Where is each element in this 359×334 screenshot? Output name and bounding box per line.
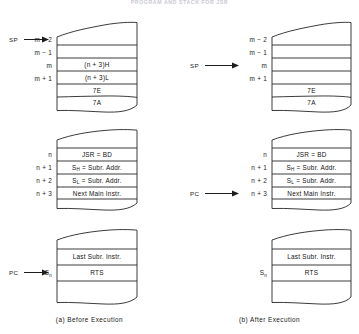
cell-after-program-4: Next Main Instr. (272, 190, 351, 197)
cell-text: RTS (90, 269, 103, 276)
cell-text: JSR = BD (296, 151, 326, 158)
addr-label-after-program-3: n + 2 (224, 177, 267, 184)
addr-label-after-stack-3: m (224, 62, 267, 69)
cell-after-stack-5: 7A (272, 99, 351, 106)
cell-text: RTS (305, 269, 318, 276)
cell-text: JSR = BD (82, 151, 112, 158)
cell-before-subroutine-2: RTS (57, 269, 137, 276)
cell-before-stack-5: 7A (57, 99, 137, 106)
cell-text: Last Subr. Instr. (287, 253, 336, 260)
cell-before-program-2: SH = Subr. Addr. (57, 164, 137, 173)
subscript-n: n (264, 273, 267, 278)
cell-text: 7A (93, 99, 101, 106)
cell-before-stack-4: 7E (57, 87, 137, 94)
jsr-stack-figure: PROGRAM AND STACK FOR JSR (0, 0, 359, 334)
caption-before-execution: (a) Before Execution (0, 316, 179, 323)
cell-text: Next Main Instr. (73, 190, 121, 197)
cell-before-subroutine-1: Last Subr. Instr. (57, 253, 137, 260)
addr-label-after-program-4: n + 3 (224, 190, 267, 197)
addr-label-after-stack-2: m − 1 (224, 49, 267, 56)
addr-label-after-program-1: n (224, 151, 267, 158)
addr-label-before-stack-4: m + 1 (10, 75, 52, 82)
cell-before-stack-2: (n + 3)H (57, 61, 137, 68)
pc-pointer-label-after: PC (190, 190, 199, 197)
after-execution-panel: SP PC m − 2 m − 1 m m + 1 7E 7A n n + 1 … (180, 0, 359, 334)
cell-after-stack-4: 7E (272, 87, 351, 94)
caption-after-execution: (b) After Execution (180, 316, 359, 323)
cell-text: (n + 3)L (85, 74, 109, 81)
before-execution-panel: SP PC m − 2 m − 1 m m + 1 (n + 3)H (n + … (0, 0, 179, 334)
addr-label-before-stack-3: m (10, 62, 52, 69)
cell-before-program-1: JSR = BD (57, 151, 137, 158)
subscript-l: L (77, 180, 80, 185)
subscript-h: H (76, 167, 80, 172)
cell-text: Last Subr. Instr. (73, 253, 122, 260)
addr-label-before-program-2: n + 1 (10, 164, 52, 171)
addr-label-before-subroutine-2: Sn (10, 269, 52, 279)
cell-after-subroutine-1: Last Subr. Instr. (272, 253, 351, 260)
cell-text: 7A (307, 99, 315, 106)
cell-after-program-1: JSR = BD (272, 151, 351, 158)
sp-pointer-label-after: SP (190, 62, 199, 69)
addr-label-before-stack-1: m − 2 (10, 36, 52, 43)
cell-before-program-4: Next Main Instr. (57, 190, 137, 197)
cell-after-subroutine-2: RTS (272, 269, 351, 276)
addr-label-after-program-2: n + 1 (224, 164, 267, 171)
cell-text: 7E (307, 87, 315, 94)
cell-text: 7E (93, 87, 101, 94)
cell-after-program-3: SL = Subr. Addr. (272, 177, 351, 186)
subscript-n: n (49, 273, 52, 278)
subscript-h: H (291, 167, 295, 172)
cell-text: Next Main Instr. (287, 190, 335, 197)
addr-label-after-stack-1: m − 2 (224, 36, 267, 43)
addr-label-after-subroutine-2: Sn (224, 269, 267, 279)
cell-text: (n + 3)H (84, 61, 109, 68)
cell-after-program-2: SH = Subr. Addr. (272, 164, 351, 173)
addr-label-before-program-1: n (10, 151, 52, 158)
addr-label-before-program-4: n + 3 (10, 190, 52, 197)
cell-before-stack-3: (n + 3)L (57, 74, 137, 81)
addr-label-before-stack-2: m − 1 (10, 49, 52, 56)
subscript-l: L (291, 180, 294, 185)
addr-label-after-stack-4: m + 1 (224, 75, 267, 82)
addr-label-before-program-3: n + 2 (10, 177, 52, 184)
cell-before-program-3: SL = Subr. Addr. (57, 177, 137, 186)
